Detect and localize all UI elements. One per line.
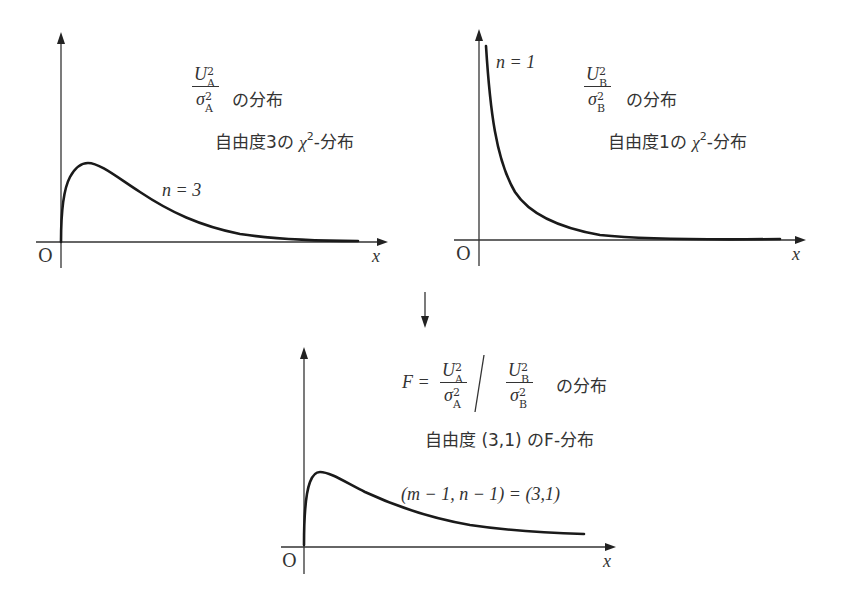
expr-suffix: の分布 — [232, 86, 283, 111]
subscript: A — [453, 399, 461, 410]
denominator-symbol: σ — [510, 385, 519, 405]
curve-label: n = 3 — [162, 180, 201, 201]
subscript: B — [599, 78, 607, 89]
caption-prefix: 自由度 — [215, 132, 266, 152]
ratio-expression-b: U2B σ2B — [584, 62, 611, 111]
subscript: B — [519, 399, 527, 410]
numerator-symbol: U — [194, 64, 207, 84]
y-axis-arrow-icon — [57, 32, 65, 44]
ratio-expression-a: U2A σ2A — [192, 62, 219, 111]
superscript: 2 — [207, 66, 214, 77]
chi-symbol: χ — [299, 133, 306, 152]
x-axis-arrow-icon — [795, 236, 806, 244]
numerator-symbol: U — [586, 64, 599, 84]
subscript: A — [455, 374, 463, 385]
expr-suffix: の分布 — [556, 372, 607, 397]
ratio-expression-b: U2B σ2B — [506, 358, 533, 407]
distribution-caption: 自由度1の χ2-分布 — [608, 128, 747, 153]
down-arrow-icon — [421, 292, 429, 328]
superscript: 2 — [597, 91, 604, 102]
distribution-caption: 自由度 (3,1) のF-分布 — [425, 426, 594, 451]
denominator-symbol: σ — [588, 89, 597, 109]
fraction-divider — [475, 355, 484, 412]
caption-mid: の — [670, 132, 687, 152]
chi2-df3-curve — [61, 163, 358, 242]
origin-label: O — [282, 550, 297, 571]
superscript: 2 — [455, 362, 462, 373]
expr-suffix: の分布 — [626, 86, 677, 111]
superscript: 2 — [453, 387, 460, 398]
superscript: 2 — [700, 130, 707, 143]
superscript: 2 — [205, 91, 212, 102]
superscript: 2 — [599, 66, 606, 77]
caption-df: 1 — [659, 132, 670, 152]
superscript: 2 — [307, 130, 314, 143]
curve-label: (m − 1, n − 1) = (3,1) — [401, 484, 560, 505]
origin-label: O — [456, 243, 471, 264]
superscript: 2 — [519, 387, 526, 398]
denominator-symbol: σ — [444, 385, 453, 405]
chi-symbol: χ — [692, 133, 699, 152]
y-axis-arrow-icon — [300, 347, 308, 359]
curve-label: n = 1 — [496, 52, 535, 73]
subscript: A — [207, 78, 215, 89]
caption-df: 3 — [266, 132, 277, 152]
subscript: B — [521, 374, 529, 385]
caption-mid: の — [277, 132, 294, 152]
caption-suffix: -分布 — [707, 132, 747, 152]
f-lhs: F = — [402, 372, 430, 393]
denominator-symbol: σ — [196, 89, 205, 109]
caption-prefix: 自由度 — [608, 132, 659, 152]
numerator-symbol: U — [442, 360, 455, 380]
x-axis-arrow-icon — [377, 238, 388, 246]
subscript: A — [205, 103, 213, 114]
caption-suffix: -分布 — [314, 132, 354, 152]
f-dist-curve — [304, 472, 584, 545]
ratio-expression-a: U2A σ2A — [440, 358, 467, 407]
x-axis-arrow-icon — [605, 543, 616, 551]
x-axis-label: x — [603, 551, 611, 572]
y-axis-arrow-icon — [475, 29, 483, 41]
subscript: B — [597, 103, 605, 114]
x-axis-label: x — [372, 246, 380, 267]
superscript: 2 — [521, 362, 528, 373]
x-axis-label: x — [792, 244, 800, 265]
origin-label: O — [38, 245, 53, 266]
distribution-caption: 自由度3の χ2-分布 — [215, 128, 354, 153]
figure-canvas — [0, 0, 841, 610]
numerator-symbol: U — [508, 360, 521, 380]
